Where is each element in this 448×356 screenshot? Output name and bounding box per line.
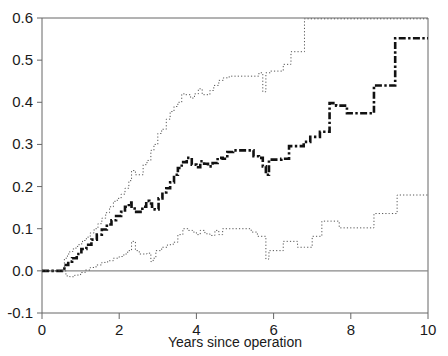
x-axis-title: Years since operation	[168, 334, 302, 350]
y-tick-label: 0.5	[12, 51, 33, 68]
y-tick-label: 0.6	[12, 9, 33, 26]
y-tick-label: 0.2	[12, 178, 33, 195]
y-tick-label: 0.3	[12, 135, 33, 152]
x-tick-label: 8	[347, 321, 355, 338]
y-tick-label: 0.1	[12, 220, 33, 237]
y-tick-label: -0.1	[7, 304, 33, 321]
x-tick-label: 2	[115, 321, 123, 338]
plot-background	[0, 0, 448, 356]
x-tick-label: 0	[38, 321, 46, 338]
y-tick-label: 0.4	[12, 93, 33, 110]
step-plot-svg: -0.10.00.10.20.30.40.50.6 0246810 Years …	[0, 0, 448, 356]
x-tick-label: 10	[420, 321, 437, 338]
figure-container: -0.10.00.10.20.30.40.50.6 0246810 Years …	[0, 0, 448, 356]
y-tick-label: 0.0	[12, 262, 33, 279]
